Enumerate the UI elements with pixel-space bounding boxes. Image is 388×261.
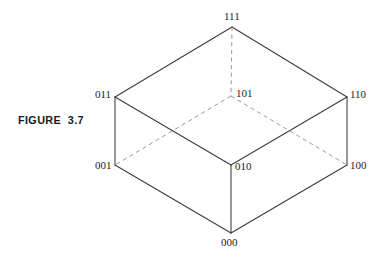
dashed-edge-group	[115, 27, 347, 165]
cube-edge-011-111	[115, 27, 232, 97]
vertex-label-100: 100	[350, 160, 367, 171]
solid-edge-group	[115, 27, 347, 233]
vertex-label-101: 101	[236, 88, 253, 99]
vertex-label-011: 011	[95, 89, 111, 100]
vertex-label-111: 111	[224, 11, 240, 22]
cube-edge-000-100	[231, 165, 347, 233]
cube-edge-111-101	[231, 27, 232, 96]
figure-3-7: FIGURE 3.7 111011110101001010100000	[0, 0, 388, 261]
vertex-label-000: 000	[221, 237, 238, 248]
cube-edge-001-000	[115, 165, 231, 233]
vertex-label-001: 001	[95, 160, 112, 171]
cube-diagram	[0, 0, 388, 261]
vertex-label-110: 110	[350, 89, 366, 100]
vertex-label-010: 010	[235, 161, 252, 172]
